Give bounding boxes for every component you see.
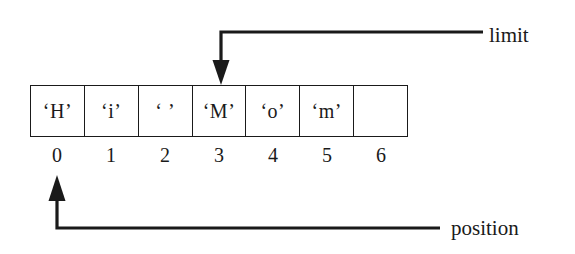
buffer-index-row: 0 1 2 3 4 5 6 [30, 142, 408, 168]
index-label: 4 [246, 142, 300, 168]
limit-pointer [213, 32, 484, 85]
index-label: 3 [192, 142, 246, 168]
position-pointer [49, 175, 441, 228]
index-label: 1 [84, 142, 138, 168]
limit-arrowhead-icon [213, 60, 230, 85]
limit-label: limit [489, 25, 529, 46]
buffer-cell-row: ‘H’ ‘i’ ‘ ’ ‘M’ ‘o’ ‘m’ [30, 85, 408, 137]
buffer-cell: ‘H’ [31, 86, 85, 136]
buffer-diagram: ‘H’ ‘i’ ‘ ’ ‘M’ ‘o’ ‘m’ 0 1 2 3 4 5 6 li… [0, 0, 575, 254]
index-label: 5 [300, 142, 354, 168]
position-arrowhead-icon [49, 175, 66, 201]
buffer-cell: ‘ ’ [139, 86, 193, 136]
buffer-cell: ‘o’ [246, 86, 300, 136]
buffer-cell: ‘m’ [300, 86, 354, 136]
position-label: position [451, 218, 519, 239]
buffer-cell: ‘i’ [85, 86, 139, 136]
index-label: 2 [138, 142, 192, 168]
index-label: 0 [30, 142, 84, 168]
buffer-cell [354, 86, 407, 136]
buffer-cell: ‘M’ [193, 86, 247, 136]
position-leader-line [57, 199, 440, 228]
index-label: 6 [354, 142, 408, 168]
limit-leader-line [221, 32, 483, 62]
